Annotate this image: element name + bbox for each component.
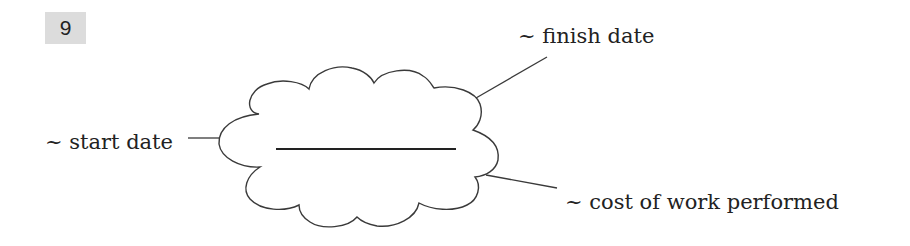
label-finish-date: ~ finish date <box>518 26 654 47</box>
connector-cost <box>486 175 557 188</box>
label-cost-of-work-performed: ~ cost of work performed <box>565 192 839 213</box>
label-start-date: ~ start date <box>45 132 173 153</box>
connector-finish <box>476 57 547 98</box>
cloud-shape <box>219 67 498 227</box>
